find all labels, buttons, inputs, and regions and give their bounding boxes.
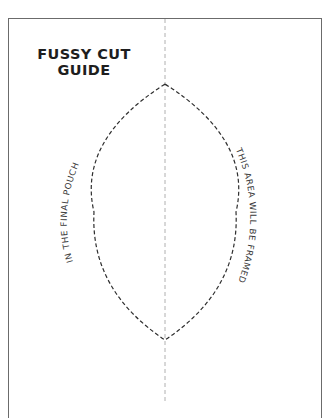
left-arc-label: IN THE FINAL POUCH (59, 161, 81, 264)
right-arc-label: THIS AREA WILL BE FRAMED (233, 146, 258, 285)
